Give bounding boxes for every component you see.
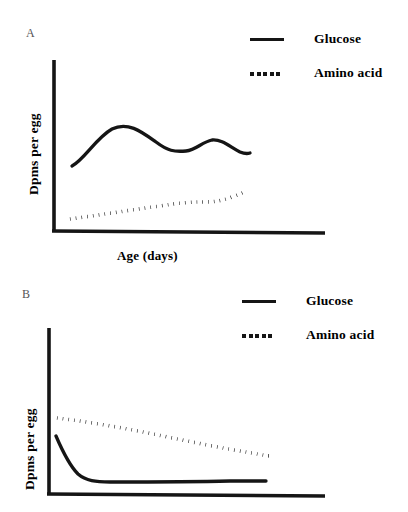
- panel-b-x-axis: [47, 494, 325, 496]
- legend-swatch-solid-line: [250, 38, 284, 41]
- legend-swatch-dotted-line: [242, 334, 276, 338]
- panel-b-series-glucose: [56, 436, 266, 482]
- panel-a-x-axis: [52, 231, 325, 233]
- panel-b-series-amino-acid: [57, 418, 271, 456]
- legend-swatch-solid-line: [242, 300, 276, 303]
- panel-a: A Dpms per egg Glucose Amino acid Age (d…: [0, 0, 408, 260]
- panel-b: B Dpms per egg Glucose Amino acid: [0, 260, 408, 512]
- panel-a-series-amino-acid: [70, 192, 244, 219]
- panel-a-legend-label-amino-acid: Amino acid: [314, 65, 382, 81]
- panel-b-legend-label-amino-acid: Amino acid: [306, 327, 374, 343]
- panel-a-legend-label-glucose: Glucose: [314, 31, 361, 47]
- panel-a-series-glucose: [72, 126, 250, 166]
- panel-b-legend-label-glucose: Glucose: [306, 293, 353, 309]
- legend-swatch-dotted-line: [250, 72, 284, 76]
